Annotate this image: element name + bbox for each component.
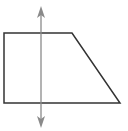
diagram-canvas [0, 0, 128, 131]
trapezoid-shape [4, 33, 120, 103]
trapezoid-symmetry-diagram [0, 0, 128, 131]
